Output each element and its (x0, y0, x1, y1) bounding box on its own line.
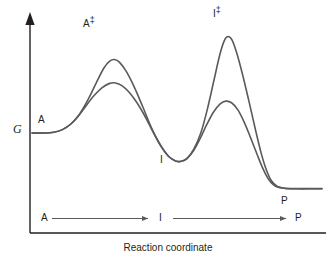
label-reactant-a: A (38, 115, 45, 125)
y-axis-label: G (13, 123, 22, 135)
x-axis-title: Reaction coordinate (0, 243, 336, 253)
label-ts1-text: A (83, 18, 90, 29)
free-energy-diagram-figure: G Reaction coordinate A A‡ I I‡ P A I P (0, 0, 336, 261)
label-transition-state-2: I‡ (213, 9, 221, 19)
label-transition-state-1: A‡ (83, 19, 95, 29)
energy-profile-curves (32, 37, 322, 189)
mechanism-label-p: P (295, 213, 302, 223)
y-axis-arrowhead (25, 12, 34, 25)
double-dagger-icon-2: ‡ (216, 5, 221, 15)
curve-catalyzed-lower-barrier (32, 83, 322, 189)
y-axis (25, 12, 34, 233)
reaction-coordinate-chart (0, 0, 336, 261)
double-dagger-icon: ‡ (90, 15, 95, 25)
label-product-p: P (281, 196, 288, 206)
mechanism-label-a: A (41, 213, 48, 223)
label-intermediate-i: I (160, 155, 163, 165)
mechanism-label-i: I (159, 213, 162, 223)
curve-uncatalyzed-higher-barrier (32, 37, 322, 189)
